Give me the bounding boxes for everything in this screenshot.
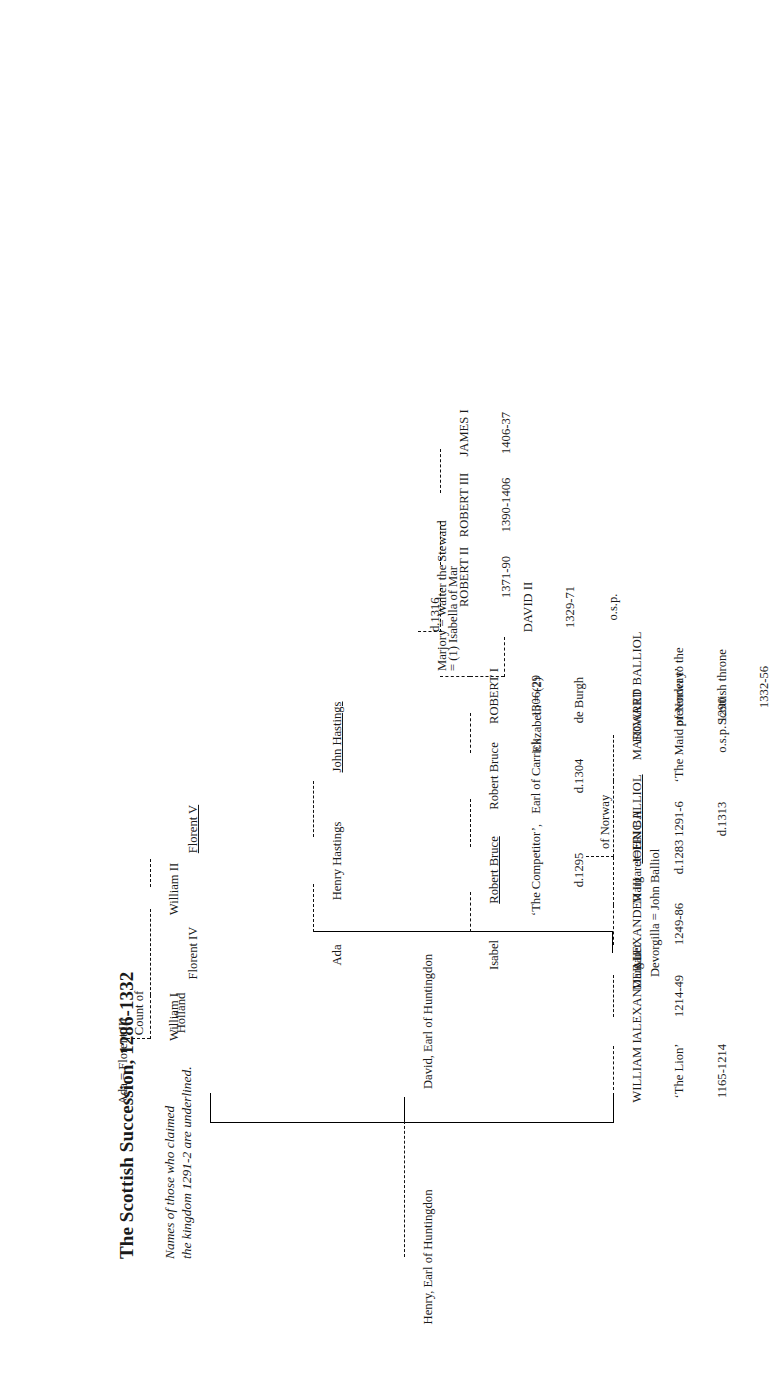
- node-henry-earl-huntingdon: Henry, Earl of Huntingdon: [393, 1190, 463, 1325]
- node-line: 1406-37: [499, 409, 513, 456]
- node-line: o.s.p.: [606, 582, 620, 633]
- node-james-i: JAMES I 1406-37: [429, 409, 542, 456]
- node-robert-bruce-competitor: Robert Bruce ‘The Competitor’, d.1295: [459, 824, 614, 916]
- node-line: Isabel: [487, 940, 501, 970]
- node-robert-ii: ROBERT II 1371-90: [429, 547, 542, 607]
- node-william-ii-holland: William II: [139, 863, 209, 915]
- node-john-balliol-king: JOHN BALLIOL 1291-6 d.1313: [602, 774, 757, 863]
- node-line: JOHN BALLIOL: [630, 774, 644, 863]
- node-line: 1165-1214: [715, 1039, 729, 1102]
- node-edward-balliol: EDWARD BALLIOL pretender to the Scottish…: [602, 632, 773, 743]
- node-robert-iii: ROBERT III 1390-1406: [429, 473, 542, 537]
- branch-to-david: [404, 1097, 405, 1123]
- florent4-to-william2h: [150, 909, 151, 995]
- node-line: David, Earl of Huntingdon: [421, 954, 435, 1089]
- caption-line-2: the kingdom 1291-2 are underlined.: [179, 1066, 196, 1259]
- node-line: d.1313: [715, 774, 729, 863]
- node-david-earl-huntingdon: David, Earl of Huntingdon: [393, 954, 463, 1089]
- node-line: John Hastings: [330, 701, 344, 772]
- node-line: EDWARD BALLIOL: [630, 632, 644, 743]
- node-line: ROBERT I: [487, 668, 501, 724]
- node-devorgilla-john-balliol: Devorgilla = John Balliol: [620, 849, 690, 977]
- node-line: William I: [167, 993, 181, 1041]
- branch-to-ada-florent: [210, 1093, 211, 1123]
- node-line: de Burgh: [572, 677, 586, 753]
- node-line: Robert Bruce: [487, 738, 501, 814]
- node-line: Robert Bruce: [487, 824, 501, 916]
- node-william-i-holland: William I: [139, 993, 209, 1041]
- node-elizabeth-de-burgh: Elizabeth = (2) de Burgh: [502, 677, 615, 753]
- spine-vertical-main: [210, 1122, 614, 1123]
- node-line: ROBERT II: [457, 547, 471, 607]
- node-line: WILLIAM I: [630, 1039, 644, 1102]
- node-line: 1390-1406: [499, 473, 513, 537]
- node-henry-hastings: Henry Hastings: [302, 822, 372, 901]
- node-line: pretender to the: [672, 632, 686, 743]
- node-line: ROBERT III: [457, 473, 471, 537]
- node-john-hastings: John Hastings: [302, 701, 372, 772]
- caption-line-1: Names of those who claimed: [162, 1066, 179, 1259]
- node-line: ‘The Lion’: [672, 1039, 686, 1102]
- node-william-i: WILLIAM I ‘The Lion’ 1165-1214: [602, 1039, 757, 1102]
- node-line: JAMES I: [457, 409, 471, 456]
- legend-caption: Names of those who claimed the kingdom 1…: [162, 1066, 196, 1259]
- node-florent-v: Florent V: [158, 805, 228, 853]
- node-isabel: Isabel: [459, 940, 529, 970]
- spine-vertical-david-children: [313, 931, 613, 932]
- node-line: ‘The Competitor’,: [529, 824, 543, 916]
- node-line: d.1295: [572, 824, 586, 916]
- node-line: Scottish throne: [715, 632, 729, 743]
- node-line: Devorgilla = John Balliol: [648, 849, 662, 977]
- node-line: Elizabeth = (2): [530, 677, 544, 753]
- node-line: Ada: [330, 945, 344, 966]
- node-line: William II: [167, 863, 181, 915]
- node-line: 1329-71: [563, 582, 577, 633]
- node-line: 1291-6: [672, 774, 686, 863]
- node-line: 1371-90: [499, 547, 513, 607]
- node-florent-iv: Florent IV: [158, 927, 228, 980]
- node-line: Henry Hastings: [330, 822, 344, 901]
- node-line: Henry, Earl of Huntingdon: [421, 1190, 435, 1325]
- node-line: Florent IV: [186, 927, 200, 980]
- page-title: The Scottish Succession, 1286-1332: [116, 972, 138, 1259]
- node-line: 1332-56: [757, 632, 771, 743]
- node-ada-hastings: Ada: [302, 945, 372, 966]
- node-line: Florent V: [186, 805, 200, 853]
